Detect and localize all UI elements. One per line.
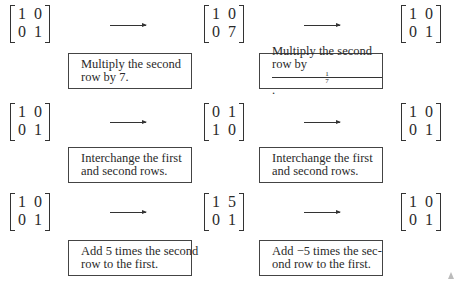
operation-text: and second rows. — [272, 165, 382, 178]
matrix-entry: 1 — [423, 122, 435, 138]
matrix-entry: 1 — [32, 212, 44, 228]
fraction-one-seventh: 17 — [272, 71, 382, 84]
matrix-entry: 1 — [16, 194, 28, 210]
matrix-entry: 0 — [423, 6, 435, 22]
matrix-entry: 0 — [226, 122, 238, 138]
matrix-entry: 0 — [210, 104, 222, 120]
matrix-entry: 1 — [423, 212, 435, 228]
operation-text: row by 7. — [81, 71, 191, 84]
matrix-elementary-row1: 1 0 0 7 — [204, 5, 244, 41]
matrix-entry: 0 — [423, 104, 435, 120]
operation-box-forward-row2: Interchange the first and second rows. — [68, 147, 192, 183]
triangle-mark-icon — [448, 272, 454, 279]
operation-box-forward-row1: Multiply the second row by 7. — [68, 53, 192, 89]
matrix-entry: 1 — [407, 104, 419, 120]
matrix-entry: 0 — [16, 24, 28, 40]
matrix-entry: 0 — [407, 24, 419, 40]
matrix-result-row1: 1 0 0 1 — [401, 5, 441, 41]
right-arrow-icon — [110, 122, 146, 123]
matrix-entry: 1 — [226, 104, 238, 120]
matrix-entry: 1 — [32, 122, 44, 138]
matrix-entry: 0 — [16, 212, 28, 228]
operation-text: ond row to the first. — [272, 258, 382, 271]
matrix-entry: 0 — [32, 194, 44, 210]
matrix-entry: 0 — [407, 122, 419, 138]
matrix-entry: 1 — [16, 6, 28, 22]
operation-text: row by 17. — [272, 58, 382, 97]
matrix-entry: 5 — [226, 194, 238, 210]
operation-box-forward-row3: Add 5 times the second row to the first. — [68, 240, 192, 276]
matrix-entry: 0 — [423, 194, 435, 210]
matrix-entry: 0 — [226, 6, 238, 22]
matrix-entry: 0 — [407, 212, 419, 228]
operation-text: row to the first. — [81, 258, 191, 271]
operation-box-inverse-row3: Add −5 times the sec- ond row to the fir… — [259, 240, 383, 276]
operation-text: and second rows. — [81, 165, 191, 178]
matrix-entry: 1 — [32, 24, 44, 40]
matrix-entry: 1 — [407, 194, 419, 210]
matrix-elementary-row3: 1 5 0 1 — [204, 193, 244, 229]
operation-box-inverse-row1: Multiply the second row by 17. — [259, 53, 383, 89]
right-arrow-icon — [304, 122, 340, 123]
matrix-entry: 0 — [32, 6, 44, 22]
matrix-identity-row1: 1 0 0 1 — [10, 5, 50, 41]
matrix-result-row3: 1 0 0 1 — [401, 193, 441, 229]
operation-box-inverse-row2: Interchange the first and second rows. — [259, 147, 383, 183]
matrix-entry: 1 — [16, 104, 28, 120]
matrix-entry: 0 — [32, 104, 44, 120]
right-arrow-icon — [110, 25, 146, 26]
matrix-result-row2: 1 0 0 1 — [401, 103, 441, 139]
right-arrow-icon — [110, 212, 146, 213]
right-arrow-icon — [304, 212, 340, 213]
matrix-identity-row3: 1 0 0 1 — [10, 193, 50, 229]
matrix-entry: 0 — [210, 212, 222, 228]
matrix-entry: 1 — [210, 194, 222, 210]
matrix-entry: 1 — [226, 212, 238, 228]
matrix-entry: 1 — [210, 6, 222, 22]
matrix-identity-row2: 1 0 0 1 — [10, 103, 50, 139]
matrix-entry: 7 — [226, 24, 238, 40]
matrix-entry: 1 — [423, 24, 435, 40]
right-arrow-icon — [304, 25, 340, 26]
matrix-entry: 1 — [210, 122, 222, 138]
matrix-entry: 0 — [210, 24, 222, 40]
matrix-entry: 1 — [407, 6, 419, 22]
matrix-elementary-row2: 0 1 1 0 — [204, 103, 244, 139]
matrix-entry: 0 — [16, 122, 28, 138]
